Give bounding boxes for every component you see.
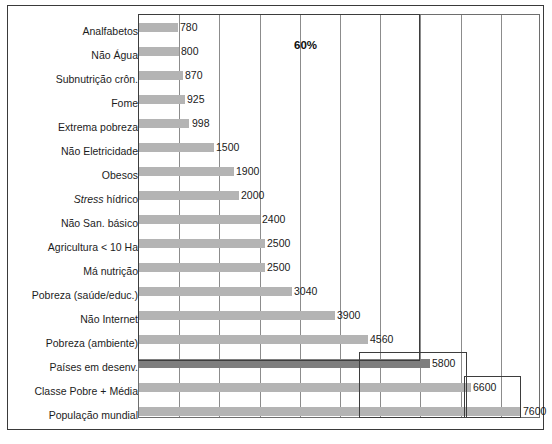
value-label-paises-em-desenv: 5800 bbox=[432, 358, 455, 369]
bar-populacao-mundial bbox=[139, 407, 521, 416]
horizontal-bar-chart: Analfabetos Não Água Subnutrição crôn. F… bbox=[0, 0, 552, 444]
value-label-nao-san-basico: 2400 bbox=[262, 214, 285, 225]
bar-subnutricao-cron bbox=[139, 71, 183, 80]
value-label-fome: 925 bbox=[187, 94, 205, 105]
axis-label-stress-hidrico: Stress hídrico bbox=[18, 194, 138, 205]
value-label-nao-agua: 800 bbox=[181, 46, 199, 57]
gridline-6400 bbox=[461, 15, 462, 417]
value-label-nao-internet: 3900 bbox=[337, 310, 360, 321]
bar-nao-internet bbox=[139, 311, 335, 320]
value-label-nao-eletricidade: 1500 bbox=[216, 142, 239, 153]
bar-agricultura-10ha bbox=[139, 239, 265, 248]
percent-annotation-label: 60% bbox=[294, 39, 317, 51]
gridline-4800 bbox=[380, 15, 381, 417]
axis-label-extrema-pobreza: Extrema pobreza bbox=[18, 122, 138, 133]
axis-label-populacao-mundial: População mundial bbox=[18, 410, 138, 421]
axis-label-classe-pobre-media: Classe Pobre + Média bbox=[18, 386, 138, 397]
value-label-populacao-mundial: 7600 bbox=[523, 406, 546, 417]
value-label-pobreza-saude-educ: 3040 bbox=[294, 286, 317, 297]
value-label-classe-pobre-media: 6600 bbox=[473, 382, 496, 393]
gridline-2400 bbox=[260, 15, 261, 417]
axis-label-nao-eletricidade: Não Eletricidade bbox=[18, 146, 138, 157]
bar-classe-pobre-media bbox=[139, 383, 471, 392]
bar-pobreza-ambiente bbox=[139, 335, 368, 344]
gridline-7200 bbox=[501, 15, 502, 417]
value-label-analfabetos: 780 bbox=[180, 22, 198, 33]
value-label-extrema-pobreza: 998 bbox=[192, 118, 210, 129]
bar-fome bbox=[139, 95, 185, 104]
gridline-4000 bbox=[340, 15, 341, 417]
axis-label-nao-agua: Não Água bbox=[18, 50, 138, 61]
bar-obesos bbox=[139, 167, 234, 176]
axis-label-obesos: Obesos bbox=[18, 170, 138, 181]
gridline-3200 bbox=[300, 15, 301, 417]
bar-nao-san-basico bbox=[139, 215, 260, 224]
bar-extrema-pobreza bbox=[139, 119, 189, 128]
axis-label-fome: Fome bbox=[18, 98, 138, 109]
gridline-5600 bbox=[420, 15, 421, 417]
axis-label-analfabetos: Analfabetos bbox=[18, 26, 138, 37]
bar-ma-nutricao bbox=[139, 263, 265, 272]
bar-nao-agua bbox=[139, 47, 179, 56]
bar-stress-hidrico bbox=[139, 191, 239, 200]
value-label-subnutricao-cron: 870 bbox=[185, 70, 203, 81]
bar-analfabetos bbox=[139, 23, 178, 32]
axis-label-agricultura-10ha: Agricultura < 10 Ha bbox=[18, 242, 138, 253]
axis-label-subnutricao-cron: Subnutrição crôn. bbox=[18, 74, 138, 85]
value-label-obesos: 1900 bbox=[236, 166, 259, 177]
axis-label-pobreza-saude-educ: Pobreza (saúde/educ.) bbox=[18, 290, 138, 301]
axis-label-paises-em-desenv: Países em desenv. bbox=[18, 362, 138, 373]
bar-paises-em-desenv bbox=[139, 359, 430, 368]
value-label-ma-nutricao: 2500 bbox=[267, 262, 290, 273]
axis-label-nao-san-basico: Não San. básico bbox=[18, 218, 138, 229]
axis-label-nao-internet: Não Internet bbox=[18, 314, 138, 325]
bar-nao-eletricidade bbox=[139, 143, 214, 152]
axis-label-pobreza-ambiente: Pobreza (ambiente) bbox=[18, 338, 138, 349]
value-label-pobreza-ambiente: 4560 bbox=[370, 334, 393, 345]
value-label-stress-hidrico: 2000 bbox=[241, 190, 264, 201]
bar-pobreza-saude-educ bbox=[139, 287, 292, 296]
axis-label-ma-nutricao: Má nutrição bbox=[18, 266, 138, 277]
value-label-agricultura-10ha: 2500 bbox=[267, 238, 290, 249]
